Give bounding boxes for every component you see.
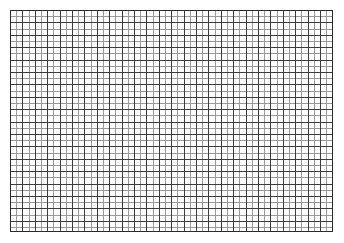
graph-paper-grid[interactable]: [10, 10, 333, 232]
page-root: [0, 0, 344, 243]
